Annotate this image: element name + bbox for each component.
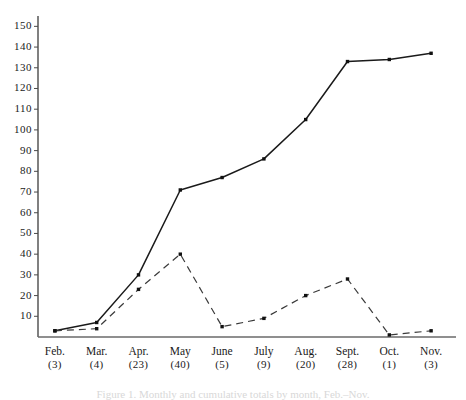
data-point-marker <box>95 321 98 324</box>
x-tick-month: Oct. <box>368 345 410 358</box>
x-tick-month: June <box>201 345 243 358</box>
x-tick-count: (23) <box>118 358 160 370</box>
x-tick-count: (20) <box>285 358 327 370</box>
x-tick-month: May <box>159 345 201 358</box>
y-tick-label: 90 <box>0 145 32 156</box>
data-point-marker <box>346 60 349 63</box>
data-point-marker <box>388 58 391 61</box>
x-tick-label-group: June(5) <box>201 345 243 370</box>
data-point-marker <box>304 294 307 297</box>
data-point-marker <box>179 188 182 191</box>
axis-lines <box>38 16 456 337</box>
x-tick-month: Feb. <box>34 345 76 358</box>
data-point-marker <box>53 329 56 332</box>
x-tick-month: Mar. <box>76 345 118 358</box>
data-point-marker <box>262 157 265 160</box>
data-point-marker <box>429 52 432 55</box>
series-layer <box>53 52 433 337</box>
series-line-monthly-count <box>55 254 431 335</box>
series-line-cumulative-total <box>55 53 431 331</box>
y-tick-label: 120 <box>0 82 32 93</box>
y-tick-label: 100 <box>0 124 32 135</box>
y-tick-label: 110 <box>0 103 32 114</box>
chart-figure: 102030405060708090100110120130140150 Feb… <box>0 0 466 400</box>
y-tick-label: 130 <box>0 62 32 73</box>
y-tick-label: 10 <box>0 310 32 321</box>
x-tick-count: (40) <box>159 358 201 370</box>
data-point-marker <box>304 118 307 121</box>
x-tick-label-group: Feb.(3) <box>34 345 76 370</box>
y-tick-label: 40 <box>0 248 32 259</box>
y-tick-label: 60 <box>0 207 32 218</box>
x-tick-label-group: Nov.(3) <box>410 345 452 370</box>
figure-caption: Figure 1. Monthly and cumulative totals … <box>0 388 466 400</box>
y-tick-label: 80 <box>0 165 32 176</box>
data-point-marker <box>220 176 223 179</box>
data-point-marker <box>346 277 349 280</box>
data-point-marker <box>137 288 140 291</box>
y-tick-label: 30 <box>0 269 32 280</box>
x-tick-month: Sept. <box>327 345 369 358</box>
data-point-marker <box>220 325 223 328</box>
data-point-marker <box>429 329 432 332</box>
x-tick-count: (9) <box>243 358 285 370</box>
x-tick-label-group: May(40) <box>159 345 201 370</box>
data-point-marker <box>179 252 182 255</box>
x-tick-label-group: Aug.(20) <box>285 345 327 370</box>
x-tick-label-group: Sept.(28) <box>327 345 369 370</box>
x-tick-label-group: July(9) <box>243 345 285 370</box>
x-tick-month: Apr. <box>118 345 160 358</box>
x-tick-label-group: Oct.(1) <box>368 345 410 370</box>
x-tick-month: Nov. <box>410 345 452 358</box>
x-tick-month: July <box>243 345 285 358</box>
x-tick-count: (5) <box>201 358 243 370</box>
x-tick-label-group: Mar.(4) <box>76 345 118 370</box>
data-point-marker <box>262 317 265 320</box>
y-tick-label: 20 <box>0 290 32 301</box>
x-tick-count: (1) <box>368 358 410 370</box>
x-tick-count: (28) <box>327 358 369 370</box>
data-point-marker <box>95 327 98 330</box>
data-point-marker <box>388 333 391 336</box>
x-tick-count: (4) <box>76 358 118 370</box>
y-tick-label: 140 <box>0 41 32 52</box>
y-tick-label: 70 <box>0 186 32 197</box>
x-tick-count: (3) <box>410 358 452 370</box>
x-tick-label-group: Apr.(23) <box>118 345 160 370</box>
data-point-marker <box>137 273 140 276</box>
x-tick-count: (3) <box>34 358 76 370</box>
y-tick-label: 50 <box>0 227 32 238</box>
line-chart-plot <box>0 0 466 400</box>
y-tick-label: 150 <box>0 20 32 31</box>
x-tick-month: Aug. <box>285 345 327 358</box>
